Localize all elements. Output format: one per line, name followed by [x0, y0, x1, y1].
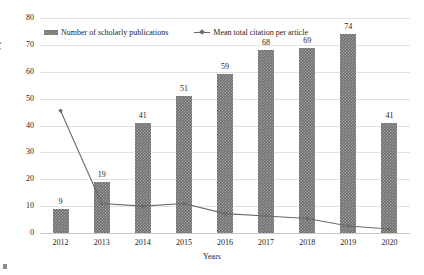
line-marker-2016 — [223, 211, 228, 216]
bar-label-2014: 41 — [128, 112, 158, 120]
bar-swatch-icon — [44, 30, 58, 35]
bar-label-2018: 69 — [292, 37, 322, 45]
x-tick-label-2020: 2020 — [367, 238, 411, 247]
y-tick-label: 20 — [12, 175, 34, 183]
x-tick-label-2018: 2018 — [285, 238, 329, 247]
bar-label-2017: 68 — [251, 39, 281, 47]
line-marker-2014 — [141, 204, 146, 209]
y-tick-label: 0 — [12, 229, 34, 237]
line-series — [40, 18, 410, 233]
line-marker-2017 — [264, 214, 269, 219]
line-marker-2020 — [387, 227, 392, 232]
bar-label-2012: 9 — [46, 198, 76, 206]
line-marker-icon — [194, 29, 210, 36]
x-tick-label-2016: 2016 — [203, 238, 247, 247]
bar-label-2016: 59 — [210, 63, 240, 71]
y-tick-label: 80 — [12, 14, 34, 22]
y-tick-label: 50 — [12, 95, 34, 103]
legend-item-citations: Mean total citation per article — [194, 28, 308, 37]
x-tick-label-2017: 2017 — [244, 238, 288, 247]
line-marker-2019 — [346, 224, 351, 229]
line-path — [61, 111, 390, 229]
plot-area — [40, 18, 410, 233]
bar-label-2020: 41 — [374, 112, 404, 120]
x-tick-label-2012: 2012 — [39, 238, 83, 247]
x-tick-label-2013: 2013 — [80, 238, 124, 247]
bar-label-2013: 19 — [87, 171, 117, 179]
chart-container: No. of scholarly publications 0102030405… — [0, 0, 424, 275]
x-tick-label-2019: 2019 — [326, 238, 370, 247]
gridline — [40, 233, 410, 234]
bar-label-2019: 74 — [333, 23, 363, 31]
x-tick-label-2015: 2015 — [162, 238, 206, 247]
line-marker-2018 — [305, 216, 310, 221]
line-marker-2012 — [58, 108, 63, 113]
legend-label-publications: Number of scholarly publications — [61, 28, 168, 37]
corner-artifact — [3, 264, 7, 269]
y-tick-label: 10 — [12, 202, 34, 210]
x-axis-title: Years — [0, 252, 424, 261]
line-marker-2015 — [182, 201, 187, 206]
line-marker-2013 — [99, 201, 104, 206]
y-tick-label: 70 — [12, 41, 34, 49]
legend-item-publications: Number of scholarly publications — [44, 28, 168, 37]
x-tick-label-2014: 2014 — [121, 238, 165, 247]
chart-legend: Number of scholarly publications Mean to… — [44, 28, 308, 37]
y-tick-label: 60 — [12, 68, 34, 76]
y-tick-label: 30 — [12, 148, 34, 156]
bar-label-2015: 51 — [169, 85, 199, 93]
y-axis-title: No. of scholarly publications — [0, 6, 1, 96]
y-tick-label: 40 — [12, 122, 34, 130]
legend-label-citations: Mean total citation per article — [213, 28, 308, 37]
